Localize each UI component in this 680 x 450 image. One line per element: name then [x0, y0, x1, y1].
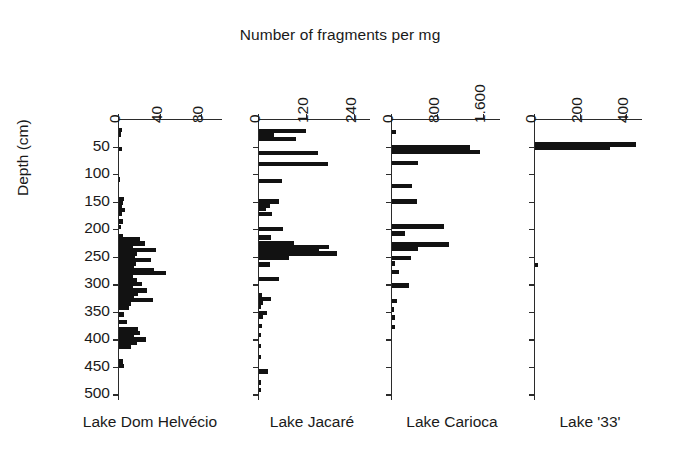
y-tick-mark: [386, 339, 391, 340]
x-tick-label: 200: [568, 97, 586, 123]
y-tick-label: 350: [54, 302, 110, 320]
bar: [119, 305, 129, 309]
bar: [392, 161, 418, 165]
x-tick-label: 40: [148, 106, 166, 123]
y-tick-mark: [253, 284, 258, 285]
bar: [392, 315, 395, 319]
bar: [392, 224, 444, 228]
x-tick-label: 1.600: [471, 84, 489, 123]
y-tick-label: 50: [54, 137, 110, 155]
bar: [119, 132, 121, 136]
bar: [259, 179, 282, 183]
x-tick-label: 240: [342, 97, 360, 123]
y-tick-mark: [386, 367, 391, 368]
bar: [259, 388, 261, 392]
bar: [259, 305, 261, 309]
bar: [119, 225, 121, 229]
panel-caption: Lake Jacaré: [242, 413, 382, 431]
y-axis-line: [534, 119, 535, 400]
y-tick-mark: [529, 284, 534, 285]
bar: [259, 227, 283, 231]
bar: [259, 212, 272, 216]
panel-caption: Lake Dom Helvécio: [60, 413, 240, 431]
bar: [259, 344, 261, 348]
y-tick-mark: [113, 174, 118, 175]
y-tick-mark: [113, 202, 118, 203]
bar: [392, 247, 418, 251]
y-tick-mark: [386, 229, 391, 230]
y-tick-mark: [253, 174, 258, 175]
y-tick-mark: [529, 367, 534, 368]
y-tick-mark: [386, 174, 391, 175]
y-tick-mark: [253, 339, 258, 340]
y-tick-mark: [113, 284, 118, 285]
y-tick-mark: [253, 202, 258, 203]
bar: [392, 150, 480, 154]
bar: [392, 256, 411, 260]
panel-caption: Lake Carioca: [382, 413, 522, 431]
y-tick-mark: [386, 312, 391, 313]
x-tick-label: 0: [106, 114, 124, 123]
bar: [119, 212, 122, 216]
bar: [392, 184, 412, 188]
bar: [119, 177, 120, 181]
y-tick-label: 250: [54, 247, 110, 265]
bar: [392, 283, 409, 287]
bar: [259, 315, 263, 319]
y-tick-mark: [529, 394, 534, 395]
bar: [119, 219, 123, 223]
y-tick-mark: [253, 312, 258, 313]
chart-panel: [258, 119, 370, 400]
bar: [392, 130, 396, 134]
chart-figure: Number of fragments per mg Depth (cm) 50…: [0, 0, 680, 450]
y-tick-mark: [529, 312, 534, 313]
y-tick-label: 150: [54, 192, 110, 210]
y-tick-mark: [113, 367, 118, 368]
bar: [392, 261, 395, 265]
y-tick-mark: [253, 367, 258, 368]
x-tick-label: 80: [189, 106, 207, 123]
bar: [259, 324, 262, 328]
bar: [119, 147, 122, 151]
bar: [392, 231, 405, 235]
y-tick-mark: [113, 339, 118, 340]
chart-panel: [534, 119, 642, 400]
y-tick-mark: [113, 394, 118, 395]
bar: [119, 344, 131, 348]
x-tick-label: 0: [522, 114, 540, 123]
bar: [259, 151, 318, 155]
y-tick-mark: [113, 312, 118, 313]
chart-panel: [118, 119, 222, 400]
x-tick-label: 120: [294, 97, 312, 123]
bar: [259, 162, 328, 166]
bar: [535, 146, 610, 150]
y-tick-mark: [386, 147, 391, 148]
y-tick-mark: [253, 257, 258, 258]
y-tick-mark: [386, 284, 391, 285]
bar: [259, 333, 261, 337]
y-tick-mark: [529, 339, 534, 340]
panel-caption: Lake '33': [520, 413, 660, 431]
x-tick-label: 0: [379, 114, 397, 123]
y-tick-mark: [529, 257, 534, 258]
bar: [259, 235, 271, 239]
y-tick-mark: [529, 229, 534, 230]
y-tick-label: 100: [54, 164, 110, 182]
y-tick-mark: [386, 202, 391, 203]
bar: [392, 325, 395, 329]
bar: [392, 299, 397, 303]
chart-panel: [391, 119, 500, 400]
bar: [259, 137, 296, 141]
bar: [259, 256, 289, 260]
bar: [392, 270, 399, 274]
x-tick-label: 400: [614, 97, 632, 123]
bar: [535, 263, 538, 267]
y-tick-mark: [113, 229, 118, 230]
y-tick-label: 500: [54, 384, 110, 402]
bar: [259, 369, 268, 373]
x-tick-label: 800: [425, 97, 443, 123]
y-tick-mark: [253, 394, 258, 395]
y-tick-mark: [253, 229, 258, 230]
y-tick-mark: [386, 394, 391, 395]
y-tick-label: 400: [54, 329, 110, 347]
